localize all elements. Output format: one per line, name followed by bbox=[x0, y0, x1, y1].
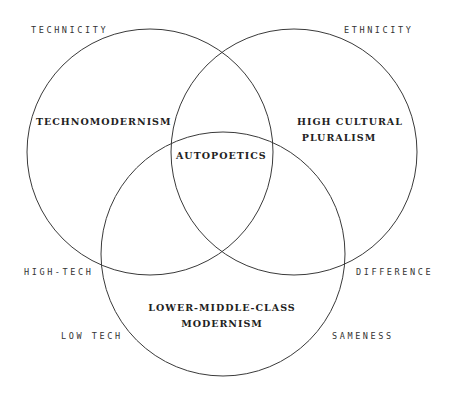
region-high-cultural-pluralism-line2: PLURALISM bbox=[297, 130, 381, 146]
region-high-cultural-pluralism: HIGH CULTURAL PLURALISM bbox=[297, 114, 381, 146]
label-low-tech: LOW TECH bbox=[61, 332, 123, 341]
region-technomodernism: TECHNOMODERNISM bbox=[36, 114, 171, 130]
label-difference: DIFFERENCE bbox=[356, 268, 433, 277]
region-autopoetics: AUTOPOETICS bbox=[176, 148, 267, 164]
region-lower-middle-class-modernism: LOWER-MIDDLE-CLASS MODERNISM bbox=[146, 300, 298, 332]
label-ethnicity: ETHNICITY bbox=[344, 26, 413, 35]
region-high-cultural-pluralism-line1: HIGH CULTURAL bbox=[297, 114, 381, 130]
label-sameness: SAMENESS bbox=[332, 332, 394, 341]
label-technicity: TECHNICITY bbox=[31, 26, 108, 35]
label-high-tech: HIGH-TECH bbox=[24, 268, 93, 277]
class-circle bbox=[101, 132, 345, 376]
region-lower-middle-class-line2: MODERNISM bbox=[146, 316, 298, 332]
venn-diagram bbox=[0, 0, 451, 406]
region-lower-middle-class-line1: LOWER-MIDDLE-CLASS bbox=[146, 300, 298, 316]
